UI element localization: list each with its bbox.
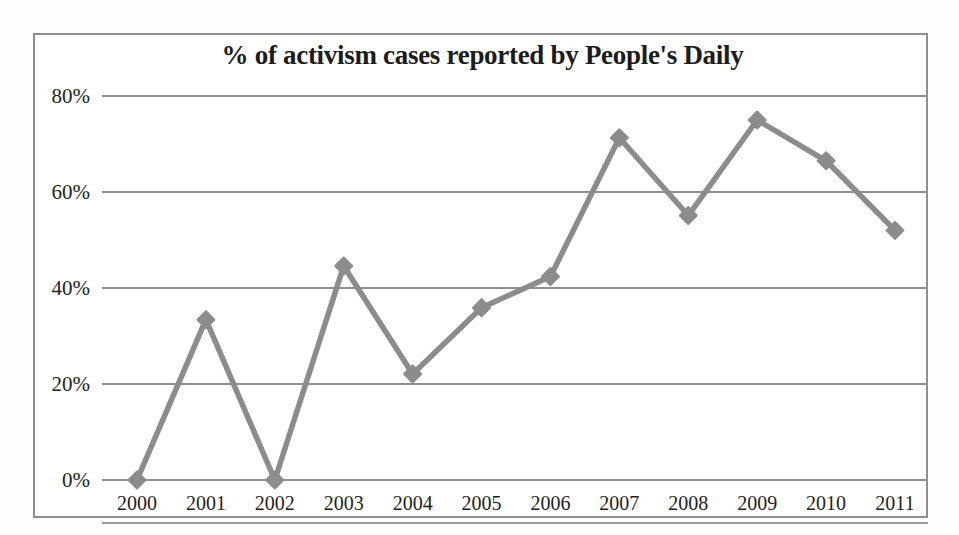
x-tick-label: 2011 [875,492,914,515]
y-tick-label: 20% [52,372,91,397]
y-tick-label: 60% [52,180,91,205]
x-tick-label: 2006 [530,492,570,515]
x-tick-label: 2003 [324,492,364,515]
y-tick-label: 0% [62,468,90,493]
plot-area: 0%20%40%60%80% 2000200120022003200420052… [102,96,928,480]
x-tick-label: 2001 [186,492,226,515]
x-tick-label: 2009 [737,492,777,515]
x-tick-label: 2007 [599,492,639,515]
series-line [137,120,895,480]
chart-title: % of activism cases reported by People's… [35,40,930,71]
chart-frame: % of activism cases reported by People's… [33,33,928,518]
x-tick-label: 2008 [668,492,708,515]
x-tick-label: 2002 [255,492,295,515]
x-tick-label: 2004 [393,492,433,515]
x-tick-label: 2005 [462,492,502,515]
y-tick-label: 40% [52,276,91,301]
y-tick-label: 80% [52,84,91,109]
x-tick-label: 2010 [806,492,846,515]
chart-screenshot: % of activism cases reported by People's… [0,0,959,535]
data-point-marker [197,311,214,328]
line-series [102,96,928,480]
data-point-marker [129,472,146,489]
data-point-marker [266,472,283,489]
axis-bottom-rule [102,522,928,524]
x-tick-label: 2000 [117,492,157,515]
